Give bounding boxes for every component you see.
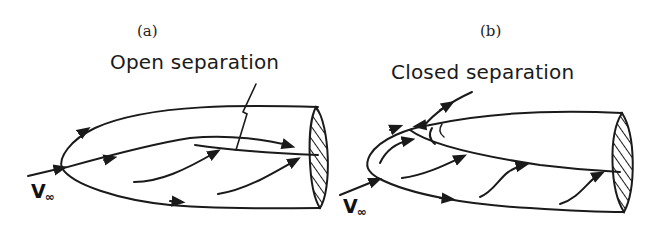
diagram-drawing	[0, 0, 664, 231]
panel-a-label: (a)	[137, 22, 158, 40]
body-outline-bottom	[378, 178, 624, 212]
panel-a-freestream-label: V∞	[31, 180, 55, 204]
panel-b-label: (b)	[480, 22, 501, 40]
panel-a-caption: Open separation	[110, 50, 279, 74]
base-section	[612, 113, 632, 212]
separation-diagram: (a) Open separation V∞ (b) Closed separa…	[0, 0, 664, 231]
panel-b-freestream-label: V∞	[343, 195, 367, 219]
freestream-arrow	[28, 168, 62, 176]
panel-b-drawing	[340, 92, 633, 212]
panel-a-drawing	[28, 84, 328, 208]
panel-b-caption: Closed separation	[391, 60, 574, 84]
body-outline-top	[430, 112, 622, 125]
caption-leader	[236, 84, 256, 150]
body-outline-bottom	[62, 168, 320, 208]
base-section	[310, 107, 328, 208]
freestream-arrow	[340, 180, 377, 195]
body-outline-nose	[367, 125, 430, 178]
